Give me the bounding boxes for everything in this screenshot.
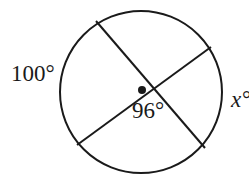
arc-left-label: 100°: [11, 61, 55, 86]
chord-1: [96, 21, 205, 148]
angle-center-label: 96°: [132, 98, 164, 123]
arc-right-label: x°: [230, 87, 249, 112]
circle-diagram: 100° 96° x°: [0, 0, 249, 183]
center-point: [138, 86, 146, 94]
